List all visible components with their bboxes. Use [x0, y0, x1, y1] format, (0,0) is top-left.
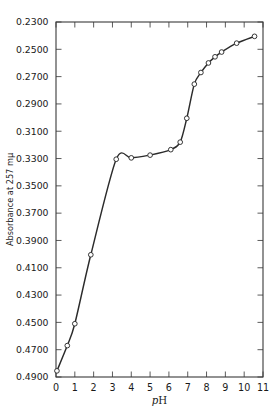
data-point-marker [199, 70, 204, 75]
x-tick-label: 5 [147, 382, 153, 393]
data-point-marker [114, 157, 119, 162]
caption-partial-text [4, 407, 275, 415]
plot-frame [56, 22, 263, 377]
x-tick-label: 9 [222, 382, 228, 393]
y-tick-label: 0.2900 [16, 98, 49, 109]
data-point-marker [234, 41, 239, 46]
x-tick-label: 0 [53, 382, 59, 393]
x-tick-label: 3 [109, 382, 115, 393]
y-tick-label: 0.4500 [16, 317, 49, 328]
absorbance-ph-chart: 0.49000.47000.45000.43000.41000.39000.37… [0, 0, 279, 415]
data-point-marker [55, 369, 60, 374]
y-tick-label: 0.4900 [16, 371, 49, 382]
data-point-marker [219, 50, 224, 55]
data-point-marker [65, 343, 70, 348]
y-tick-label: 0.2300 [16, 16, 49, 27]
x-tick-label: 8 [203, 382, 209, 393]
y-tick-label: 0.3300 [16, 153, 49, 164]
x-tick-label: 4 [128, 382, 134, 393]
y-tick-label: 0.2700 [16, 71, 49, 82]
data-point-marker [178, 140, 183, 145]
y-tick-label: 0.3900 [16, 235, 49, 246]
data-point-marker [252, 34, 257, 39]
data-point-marker [88, 252, 93, 257]
data-curve [57, 36, 255, 371]
x-tick-label: 11 [257, 382, 269, 393]
data-point-marker [168, 147, 173, 152]
y-axis-label: Absorbance at 257 mμ [5, 152, 15, 246]
x-tick-label: 2 [91, 382, 97, 393]
y-tick-label: 0.3500 [16, 180, 49, 191]
y-tick-label: 0.3700 [16, 207, 49, 218]
y-tick-label: 0.4100 [16, 262, 49, 273]
x-tick-label: 10 [238, 382, 250, 393]
x-tick-label: 1 [72, 382, 78, 393]
x-axis-label: pH [152, 395, 168, 406]
data-point-marker [148, 153, 153, 158]
figure-container: 0.49000.47000.45000.43000.41000.39000.37… [0, 0, 279, 415]
data-point-marker [206, 61, 211, 66]
y-tick-label: 0.3100 [16, 126, 49, 137]
data-point-marker [129, 156, 134, 161]
data-point-marker [184, 116, 189, 121]
y-tick-label: 0.2500 [16, 44, 49, 55]
y-tick-label: 0.4700 [16, 344, 49, 355]
data-point-marker [192, 82, 197, 87]
y-tick-label: 0.4300 [16, 289, 49, 300]
x-tick-label: 7 [185, 382, 191, 393]
x-tick-label: 6 [166, 382, 172, 393]
data-point-marker [213, 54, 218, 59]
data-point-marker [72, 321, 77, 326]
